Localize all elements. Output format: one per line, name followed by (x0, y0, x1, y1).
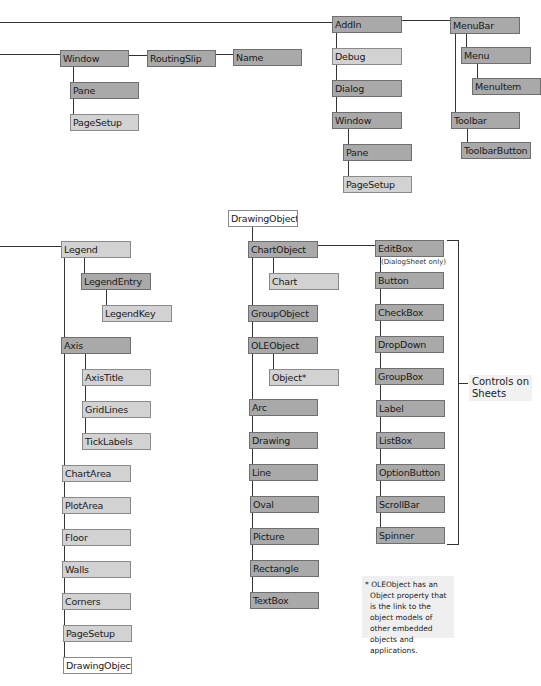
node-drawingobjects-chart: DrawingObjects (63, 657, 132, 674)
connector-line (477, 63, 478, 79)
connector-line (273, 258, 274, 274)
node-pane-right: Pane (343, 144, 412, 161)
node-drawingobjects: DrawingObjects (228, 210, 298, 227)
oleobject-footnote: * OLEObject has an Object property that … (362, 576, 454, 638)
node-axis: Axis (61, 337, 131, 354)
node-rectangle: Rectangle (250, 560, 319, 577)
node-pagesetup-right: PageSetup (343, 176, 412, 193)
node-chartarea: ChartArea (62, 465, 131, 482)
node-oleobject: OLEObject (248, 337, 318, 354)
node-chart: Chart (269, 273, 339, 290)
controls-on-sheets-label: Controls on Sheets (469, 375, 532, 401)
node-debug: Debug (332, 48, 402, 65)
node-textbox: TextBox (250, 592, 319, 609)
node-pane-left: Pane (70, 82, 139, 99)
object-model-diagram: WindowRoutingSlipNamePanePageSetupAddInD… (0, 0, 541, 686)
connector-line (317, 245, 376, 246)
node-checkbox: CheckBox (375, 304, 444, 321)
node-menu: Menu (461, 47, 531, 64)
node-floor: Floor (62, 529, 131, 546)
controls-bracket-tick (458, 383, 468, 384)
node-legendentry: LegendEntry (81, 273, 151, 290)
node-groupobject: GroupObject (248, 305, 318, 322)
node-dialog: Dialog (332, 80, 402, 97)
node-window-right: Window (332, 112, 402, 129)
node-line: Line (249, 464, 318, 481)
node-window-left: Window (60, 50, 129, 67)
connector-line (0, 246, 62, 247)
node-menubar: MenuBar (450, 17, 520, 34)
connector-line (467, 128, 468, 143)
node-toolbarbutton: ToolbarButton (461, 142, 531, 159)
connector-line (455, 33, 456, 113)
node-groupbox: GroupBox (375, 368, 444, 385)
controls-label-line1: Controls on (472, 376, 529, 388)
node-axistitle: AxisTitle (82, 369, 151, 386)
node-walls: Walls (62, 561, 131, 578)
node-picture: Picture (250, 528, 319, 545)
node-button: Button (375, 272, 444, 289)
node-toolbar: Toolbar (451, 112, 520, 129)
connector-line (273, 354, 274, 370)
node-listbox: ListBox (376, 432, 445, 449)
node-arc: Arc (249, 399, 318, 416)
node-optionbutton: OptionButton (376, 464, 445, 481)
node-object: Object* (269, 369, 339, 386)
connector-line (380, 257, 381, 528)
node-legend: Legend (61, 241, 131, 258)
connector-line (0, 54, 61, 55)
node-pagesetup-left: PageSetup (70, 114, 139, 131)
controls-bracket (447, 240, 459, 545)
node-oval: Oval (250, 496, 319, 513)
node-addin: AddIn (332, 16, 402, 33)
node-editbox: EditBox (375, 240, 444, 257)
node-scrollbar: ScrollBar (376, 496, 445, 513)
connector-line (215, 54, 234, 55)
editbox-note: (DialogSheet only) (381, 258, 446, 266)
node-ticklabels: TickLabels (82, 433, 151, 450)
node-gridlines: GridLines (82, 401, 151, 418)
node-routingslip: RoutingSlip (147, 50, 216, 67)
connector-line (128, 55, 148, 56)
node-dropdown: DropDown (375, 336, 444, 353)
node-name: Name (233, 49, 302, 66)
node-spinner: Spinner (376, 527, 445, 544)
connector-line (84, 258, 85, 274)
node-drawing: Drawing (249, 432, 318, 449)
controls-label-line2: Sheets (472, 388, 529, 400)
connector-line (85, 354, 86, 434)
connector-line (336, 32, 337, 113)
node-menuitem: MenuItem (472, 78, 541, 95)
node-corners: Corners (62, 593, 131, 610)
connector-line (466, 33, 467, 48)
connector-line (106, 290, 107, 306)
connector-line (401, 20, 451, 21)
node-legendkey: LegendKey (102, 305, 172, 322)
node-pagesetup-chart: PageSetup (63, 625, 132, 642)
connector-line (0, 22, 333, 23)
node-plotarea: PlotArea (62, 497, 131, 514)
node-chartobject: ChartObject (248, 241, 318, 258)
node-label: Label (376, 400, 445, 417)
